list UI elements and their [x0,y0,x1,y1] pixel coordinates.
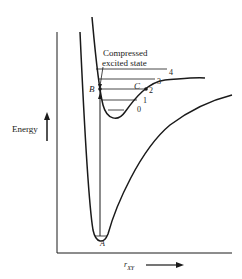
point-b-marker [98,87,102,91]
annotation-line-1: Compressed [103,48,148,58]
annotation-pointer [100,67,103,86]
vib-label-0: 0 [137,105,141,115]
energy-arrow-head [44,112,50,120]
point-b-label: B [89,84,95,94]
point-c-label: C [134,81,140,91]
vib-label-2: 2 [149,86,153,96]
point-a-label: A [100,239,105,249]
energy-diagram [0,0,242,279]
vib-label-1: 1 [143,96,147,106]
y-axis-label: Energy [12,124,38,134]
annotation-line-2: excited state [102,58,147,68]
x-axis-subscript: XY [127,265,134,271]
x-axis-label: rXY [124,260,134,273]
r-arrow-head [176,262,184,268]
vib-label-3: 3 [157,77,161,87]
point-c-marker [144,87,148,91]
vib-label-4: 4 [169,68,173,78]
